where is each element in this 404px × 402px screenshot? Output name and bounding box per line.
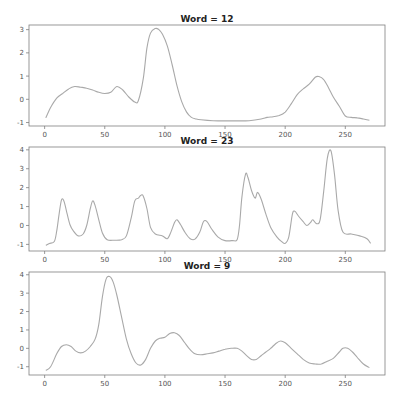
y-tick-label: 3 bbox=[20, 165, 24, 173]
y-tick-label: -1 bbox=[17, 241, 24, 249]
subplot-title: Word = 23 bbox=[180, 136, 233, 146]
y-tick-label: 4 bbox=[20, 271, 25, 279]
x-tick-label: 50 bbox=[100, 131, 109, 139]
x-tick-label: 200 bbox=[278, 380, 291, 388]
x-tick-label: 200 bbox=[278, 131, 291, 139]
x-tick-label: 0 bbox=[42, 256, 46, 264]
x-tick-label: 250 bbox=[339, 380, 352, 388]
x-tick-label: 50 bbox=[100, 380, 109, 388]
y-tick-label: 0 bbox=[20, 96, 24, 104]
y-tick-label: -1 bbox=[17, 363, 24, 371]
subplot-word-12: Word = 12 050100150200250-10123 bbox=[17, 14, 385, 139]
data-line bbox=[46, 150, 371, 245]
x-tick-label: 0 bbox=[42, 131, 46, 139]
y-tick-label: 1 bbox=[20, 326, 24, 334]
y-tick-label: 0 bbox=[20, 222, 24, 230]
x-tick-label: 150 bbox=[218, 380, 231, 388]
y-tick-label: 2 bbox=[20, 49, 24, 57]
x-tick-label: 100 bbox=[158, 380, 171, 388]
subplot-title: Word = 12 bbox=[180, 14, 233, 24]
y-tick-label: 3 bbox=[20, 26, 24, 34]
y-tick-label: -1 bbox=[17, 119, 24, 127]
y-tick-label: 3 bbox=[20, 290, 24, 298]
subplot-title: Word = 9 bbox=[184, 261, 231, 271]
x-tick-label: 50 bbox=[100, 256, 109, 264]
x-tick-label: 250 bbox=[339, 256, 352, 264]
data-line bbox=[46, 276, 370, 370]
y-tick-label: 0 bbox=[20, 345, 24, 353]
y-tick-label: 2 bbox=[20, 184, 24, 192]
subplot-word-9: Word = 9 050100150200250-101234 bbox=[17, 261, 385, 388]
y-tick-label: 1 bbox=[20, 73, 24, 81]
x-tick-label: 0 bbox=[42, 380, 46, 388]
chart-canvas: Word = 12 050100150200250-10123 Word = 2… bbox=[0, 0, 404, 402]
data-line bbox=[46, 28, 370, 121]
axes-frame bbox=[29, 25, 385, 126]
x-tick-label: 100 bbox=[158, 256, 171, 264]
y-tick-label: 2 bbox=[20, 308, 24, 316]
y-tick-label: 4 bbox=[20, 146, 25, 154]
x-tick-label: 200 bbox=[278, 256, 291, 264]
x-tick-label: 250 bbox=[339, 131, 352, 139]
x-tick-label: 100 bbox=[158, 131, 171, 139]
subplot-word-23: Word = 23 050100150200250-101234 bbox=[17, 136, 385, 264]
y-tick-label: 1 bbox=[20, 203, 24, 211]
